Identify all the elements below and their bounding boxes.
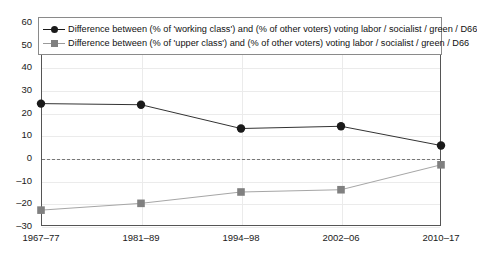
y-axis-tick-label: 20 — [0, 108, 32, 118]
data-point-square[interactable] — [137, 200, 145, 208]
data-point-square[interactable] — [437, 161, 445, 169]
gridline-horizontal — [42, 227, 440, 228]
legend-label-upper-class: Difference between (% of 'upper class') … — [68, 37, 469, 49]
y-axis-tick-label: 50 — [0, 40, 32, 50]
legend-item-working-class[interactable]: Difference between (% of 'working class'… — [43, 22, 436, 36]
y-axis-tick-label: –30 — [0, 221, 32, 231]
y-axis-tick-label: 40 — [0, 62, 32, 72]
data-series — [37, 99, 445, 149]
y-axis-tick-label: 10 — [0, 130, 32, 140]
data-point-circle[interactable] — [437, 141, 445, 149]
y-axis-tick-label: –20 — [0, 198, 32, 208]
x-axis-tick-label: 2010–17 — [423, 232, 460, 243]
legend-marker-circle-icon — [43, 23, 65, 35]
y-axis-tick-label: 60 — [0, 17, 32, 27]
y-axis-tick-label: 0 — [0, 153, 32, 163]
x-axis-tick-label: 2002–06 — [323, 232, 360, 243]
data-point-square[interactable] — [237, 188, 245, 196]
chart-legend: Difference between (% of 'working class'… — [38, 17, 442, 55]
data-point-circle[interactable] — [237, 124, 245, 132]
y-axis-tick-label: 30 — [0, 85, 32, 95]
chart-container: 6050403020100–10–20–30 1967–771981–89199… — [0, 0, 477, 254]
legend-label-working-class: Difference between (% of 'working class'… — [68, 23, 477, 35]
data-point-circle[interactable] — [137, 101, 145, 109]
data-series — [37, 161, 445, 214]
series-line — [41, 165, 441, 210]
x-axis-tick-label: 1967–77 — [23, 232, 60, 243]
legend-marker-square-icon — [43, 37, 65, 49]
data-point-circle[interactable] — [37, 99, 45, 107]
data-point-square[interactable] — [337, 186, 345, 194]
x-axis-tick-label: 1994–98 — [223, 232, 260, 243]
legend-item-upper-class[interactable]: Difference between (% of 'upper class') … — [43, 36, 436, 50]
x-axis-tick-label: 1981–89 — [123, 232, 160, 243]
data-point-square[interactable] — [37, 206, 45, 214]
y-axis-tick-label: –10 — [0, 176, 32, 186]
data-point-circle[interactable] — [337, 122, 345, 130]
